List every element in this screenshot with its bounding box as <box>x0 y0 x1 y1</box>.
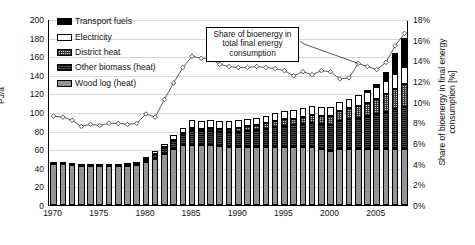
legend-item-label: Transport fuels <box>75 17 132 26</box>
share-line-marker <box>282 68 287 73</box>
x-axis-tick-label: 1985 <box>174 209 208 218</box>
bioenergy-stacked-bar-chart: PJ/a Share of bioenergy in final energy … <box>0 0 475 245</box>
share-line-marker <box>153 115 158 120</box>
share-line-marker <box>264 65 269 70</box>
y-axis-right-tick-label: 16% <box>413 37 437 45</box>
y-axis-left-tick-label: 40 <box>20 165 44 173</box>
share-line-marker <box>227 64 232 69</box>
share-line-marker <box>88 122 93 127</box>
x-axis-tick-label: 1975 <box>82 209 116 218</box>
legend-item-label: Electricity <box>75 33 112 42</box>
legend-item: Other biomass (heat) <box>57 60 175 75</box>
x-axis-tick-label: 2000 <box>313 209 347 218</box>
y-axis-right-tick-label: 14% <box>413 57 437 65</box>
x-axis-tick-label: 1970 <box>36 209 70 218</box>
other-biomass-swatch <box>57 64 72 71</box>
legend-item: Electricity <box>57 29 175 44</box>
share-line-marker <box>98 123 103 128</box>
electricity-swatch <box>57 34 72 41</box>
share-line-marker <box>125 122 130 127</box>
y-axis-right-tick-label: 10% <box>413 99 437 107</box>
y-axis-right-tick-label: 8% <box>413 119 437 127</box>
y-axis-right-tick-label: 18% <box>413 16 437 24</box>
y-axis-right-title-line2: consumption [%] <box>447 12 457 192</box>
legend: Transport fuelsElectricityDistrict heatO… <box>57 14 175 91</box>
legend-item-label: Other biomass (heat) <box>75 63 156 72</box>
y-axis-left-tick-label: 120 <box>20 90 44 98</box>
share-line-marker <box>273 66 278 71</box>
y-axis-right-title-line1: Share of bioenergy in final energy <box>437 12 447 192</box>
y-axis-right-tick-label: 6% <box>413 140 437 148</box>
legend-item: District heat <box>57 45 175 60</box>
y-axis-left-tick-label: 180 <box>20 35 44 43</box>
share-line-marker <box>51 114 56 119</box>
share-line-marker <box>254 64 259 69</box>
annotation-callout: Share of bioenergy in total final energy… <box>206 27 299 62</box>
y-axis-left-tick-label: 100 <box>20 109 44 117</box>
y-axis-right-tick-label: 12% <box>413 78 437 86</box>
legend-item: Wood log (heat) <box>57 76 175 91</box>
y-axis-left-tick-label: 80 <box>20 128 44 136</box>
wood-log-swatch <box>57 80 72 87</box>
share-line-marker <box>319 68 324 73</box>
legend-item: Transport fuels <box>57 14 175 29</box>
share-line-marker <box>61 115 66 120</box>
y-axis-right-tick-label: 4% <box>413 161 437 169</box>
legend-item-label: Wood log (heat) <box>75 79 136 88</box>
x-axis-tick-label: 1995 <box>266 209 300 218</box>
share-line-marker <box>107 121 112 126</box>
share-line-marker <box>365 64 370 69</box>
share-line-marker <box>218 62 223 67</box>
share-line-marker <box>236 65 241 70</box>
y-axis-right-tick-label: 0% <box>413 202 437 210</box>
share-line-marker <box>199 56 204 61</box>
share-line-marker <box>291 74 296 79</box>
x-axis-tick-label: 1990 <box>220 209 254 218</box>
y-axis-left-tick-label: 160 <box>20 53 44 61</box>
share-line-marker <box>245 65 250 70</box>
share-line-marker <box>116 121 121 126</box>
y-axis-right-tick-label: 2% <box>413 181 437 189</box>
y-axis-left-tick-label: 200 <box>20 16 44 24</box>
x-axis-tick-label: 2005 <box>359 209 393 218</box>
y-axis-right-title: Share of bioenergy in final energy consu… <box>437 12 457 192</box>
y-axis-left-title: PJ/a <box>0 87 6 104</box>
legend-item-label: District heat <box>75 48 120 57</box>
y-axis-left-tick-label: 140 <box>20 72 44 80</box>
annotation-leader-line <box>300 41 358 63</box>
district-heat-swatch <box>57 49 72 56</box>
x-axis-tick-label: 1980 <box>128 209 162 218</box>
transport-fuels-swatch <box>57 18 72 25</box>
share-line-marker <box>162 97 167 102</box>
share-line-marker <box>310 73 315 78</box>
y-axis-left-tick-label: 60 <box>20 146 44 154</box>
y-axis-left-tick-label: 20 <box>20 183 44 191</box>
share-line-marker <box>347 76 352 81</box>
share-line-marker <box>301 69 306 74</box>
